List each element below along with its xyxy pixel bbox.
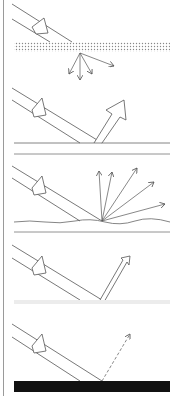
reflection-diagram <box>0 0 181 396</box>
panel-diffuse <box>12 166 170 232</box>
panel-specular <box>12 88 170 154</box>
black-absorbing-surface <box>14 381 170 392</box>
diagram-canvas <box>0 0 181 396</box>
incident-ray-arrow <box>12 88 102 143</box>
incident-ray-arrow <box>12 166 102 221</box>
rough-surface-line <box>14 219 170 224</box>
dotted-surface <box>14 42 170 52</box>
reflected-broad-arrow <box>94 100 126 143</box>
panel-translucent-scatter <box>12 4 170 80</box>
dashed-reflected-ray <box>102 334 130 381</box>
scattered-rays <box>69 53 114 80</box>
panel-glossy <box>12 245 170 304</box>
diffuse-rays <box>99 168 165 221</box>
incident-ray-arrow <box>12 324 102 381</box>
panel-absorbed <box>12 324 170 392</box>
faint-surface <box>14 300 170 304</box>
reflected-narrow-arrow <box>100 256 130 302</box>
incident-ray-arrow <box>12 245 102 300</box>
incident-ray-arrow <box>12 4 72 42</box>
